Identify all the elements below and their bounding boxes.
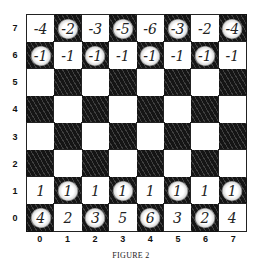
board-square: 2 <box>54 204 81 231</box>
piece-value: 1 <box>64 183 73 199</box>
piece-value: 1 <box>146 183 155 199</box>
piece-value: -3 <box>89 21 103 37</box>
rank-label: 6 <box>8 41 22 68</box>
file-label: 5 <box>164 233 192 245</box>
board-square: -3 <box>82 15 109 42</box>
piece-value: 3 <box>173 210 182 226</box>
board-square <box>164 123 191 150</box>
board-square: -1 <box>191 42 218 69</box>
rank-labels: 7 6 5 4 3 2 1 0 <box>8 14 22 232</box>
rank-label: 5 <box>8 69 22 96</box>
rank-label: 4 <box>8 96 22 123</box>
board-square <box>54 150 81 177</box>
piece-value: 1 <box>91 183 100 199</box>
piece-value: 1 <box>118 183 127 199</box>
board-square <box>27 69 54 96</box>
board-square <box>219 96 246 123</box>
board-square: -1 <box>109 42 136 69</box>
board-square: 4 <box>27 204 54 231</box>
board-square: 1 <box>54 177 81 204</box>
piece-value: -1 <box>171 48 185 64</box>
piece-value: 1 <box>36 183 45 199</box>
piece-value: -1 <box>89 48 103 64</box>
piece-value: -2 <box>198 21 212 37</box>
board-square <box>191 123 218 150</box>
board-square: 1 <box>27 177 54 204</box>
rank-label: 1 <box>8 178 22 205</box>
piece-value: -4 <box>225 21 239 37</box>
rank-label: 2 <box>8 150 22 177</box>
board-square <box>82 123 109 150</box>
piece-value: 3 <box>91 210 100 226</box>
board-square: -3 <box>164 15 191 42</box>
figure-caption: FIGURE 2 <box>0 251 262 260</box>
file-label: 1 <box>54 233 82 245</box>
board-square <box>191 96 218 123</box>
piece-value: -6 <box>143 21 157 37</box>
board-square <box>164 69 191 96</box>
board-square: 1 <box>137 177 164 204</box>
board-square <box>82 150 109 177</box>
board-square <box>137 150 164 177</box>
piece-value: 5 <box>118 210 127 226</box>
rank-label: 3 <box>8 123 22 150</box>
piece-value: 2 <box>64 210 73 226</box>
piece-value: -4 <box>34 21 48 37</box>
board-square: -4 <box>219 15 246 42</box>
board-square <box>27 96 54 123</box>
piece-value: -1 <box>143 48 157 64</box>
file-label: 2 <box>81 233 109 245</box>
piece-value: -1 <box>225 48 239 64</box>
board-square: 5 <box>109 204 136 231</box>
board-square <box>54 96 81 123</box>
board-square: 1 <box>109 177 136 204</box>
board-square <box>191 150 218 177</box>
file-label: 7 <box>219 233 247 245</box>
board-square: 1 <box>82 177 109 204</box>
board-square: -4 <box>27 15 54 42</box>
piece-value: -1 <box>61 48 75 64</box>
board-square <box>54 123 81 150</box>
piece-value: -1 <box>198 48 212 64</box>
piece-value: 1 <box>200 183 209 199</box>
board-square: 3 <box>82 204 109 231</box>
board-square <box>137 69 164 96</box>
piece-value: 4 <box>228 210 237 226</box>
board-square <box>109 150 136 177</box>
board-square: -1 <box>164 42 191 69</box>
file-label: 4 <box>137 233 165 245</box>
board-square: -1 <box>137 42 164 69</box>
board-square: -1 <box>219 42 246 69</box>
board-square <box>109 123 136 150</box>
board-square <box>109 96 136 123</box>
board-square <box>191 69 218 96</box>
piece-value: -1 <box>34 48 48 64</box>
board-square: 3 <box>164 204 191 231</box>
board-square <box>137 123 164 150</box>
chessboard: -4-2-3-5-6-3-2-4-1-1-1-1-1-1-1-111111111… <box>26 14 247 232</box>
board-square <box>164 96 191 123</box>
board-square <box>54 69 81 96</box>
piece-value: 2 <box>200 210 209 226</box>
board-square <box>219 150 246 177</box>
board-square <box>109 69 136 96</box>
board-square <box>219 69 246 96</box>
board-square: 1 <box>219 177 246 204</box>
board-square: 6 <box>137 204 164 231</box>
piece-value: 4 <box>36 210 45 226</box>
board-square: -5 <box>109 15 136 42</box>
file-label: 0 <box>26 233 54 245</box>
board-square <box>27 123 54 150</box>
rank-label: 0 <box>8 205 22 232</box>
board-square: 1 <box>191 177 218 204</box>
board-square: 4 <box>219 204 246 231</box>
board-square <box>82 96 109 123</box>
board-square: 2 <box>191 204 218 231</box>
board-square: -2 <box>191 15 218 42</box>
rank-label: 7 <box>8 14 22 41</box>
piece-value: -1 <box>116 48 130 64</box>
board-square: 1 <box>164 177 191 204</box>
board-square <box>219 123 246 150</box>
board-square: -1 <box>54 42 81 69</box>
piece-value: -3 <box>171 21 185 37</box>
